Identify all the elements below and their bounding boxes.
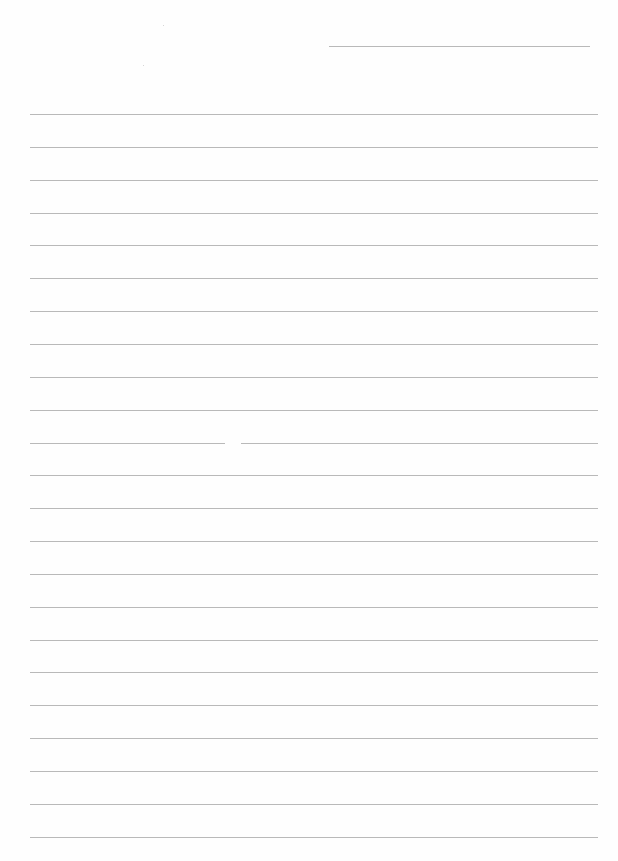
ruled-line xyxy=(30,245,598,246)
ruled-line xyxy=(30,377,598,378)
ruled-line xyxy=(30,574,598,575)
ruled-line xyxy=(241,443,598,444)
header-name-line xyxy=(329,46,590,47)
ruled-line xyxy=(30,640,598,641)
ruled-line xyxy=(30,541,598,542)
ruled-line xyxy=(30,607,598,608)
paper-speck xyxy=(163,25,164,26)
lined-paper-page xyxy=(0,0,618,861)
ruled-line xyxy=(30,410,598,411)
ruled-line xyxy=(30,705,598,706)
ruled-line xyxy=(30,672,598,673)
ruled-line xyxy=(30,311,598,312)
ruled-line xyxy=(30,837,598,838)
ruled-line xyxy=(30,147,598,148)
ruled-line xyxy=(30,443,225,444)
ruled-line xyxy=(30,344,598,345)
paper-speck xyxy=(143,65,144,66)
ruled-line xyxy=(30,508,598,509)
ruled-line xyxy=(30,278,598,279)
ruled-line xyxy=(30,804,598,805)
ruled-line xyxy=(30,180,598,181)
ruled-line xyxy=(30,475,598,476)
ruled-line xyxy=(30,738,598,739)
ruled-line xyxy=(30,213,598,214)
ruled-line xyxy=(30,771,598,772)
ruled-line xyxy=(30,114,598,115)
